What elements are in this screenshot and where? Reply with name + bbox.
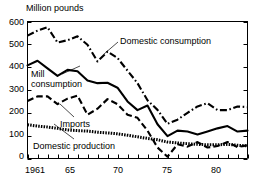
series-line-mill-consumption [28,61,248,136]
x-tick-marks [29,155,249,159]
y-tick-marks [28,23,248,160]
series-line-domestic-production [28,125,248,146]
chart-container: Million pounds 600 500 400 300 200 100 0… [0,0,258,184]
leader-domestic-consumption [104,42,118,54]
annotation-leader-lines [54,42,118,139]
plot-area [0,0,258,184]
data-series-group [28,27,248,156]
leader-imports [60,104,74,117]
leader-mill-consumption [62,66,80,74]
